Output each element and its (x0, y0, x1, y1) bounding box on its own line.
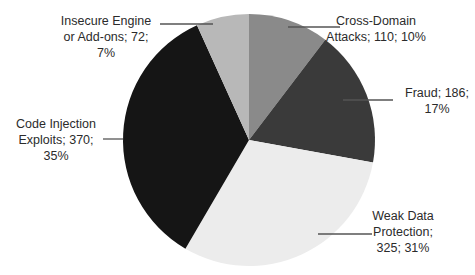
label-line: 325; 31% (372, 240, 434, 256)
label-fraud: Fraud; 186; 17% (405, 85, 469, 117)
label-line: Protection; (372, 224, 434, 240)
label-insecure-engine-or-add-ons: Insecure Engine or Add-ons; 72; 7% (61, 13, 151, 61)
label-weak-data-protection: Weak Data Protection; 325; 31% (372, 208, 434, 256)
label-line: 17% (405, 101, 469, 117)
label-line: Exploits; 370; (16, 132, 96, 148)
label-line: Code Injection (16, 116, 96, 132)
label-line: Cross-Domain (326, 13, 426, 29)
label-line: 35% (16, 148, 96, 164)
label-line: or Add-ons; 72; (61, 29, 151, 45)
label-line: Weak Data (372, 208, 434, 224)
label-line: 7% (61, 45, 151, 61)
label-cross-domain-attacks: Cross-Domain Attacks; 110; 10% (326, 13, 426, 45)
label-line: Insecure Engine (61, 13, 151, 29)
label-code-injection-exploits: Code Injection Exploits; 370; 35% (16, 116, 96, 164)
label-line: Fraud; 186; (405, 85, 469, 101)
label-line: Attacks; 110; 10% (326, 29, 426, 45)
pie-slices (123, 14, 375, 266)
